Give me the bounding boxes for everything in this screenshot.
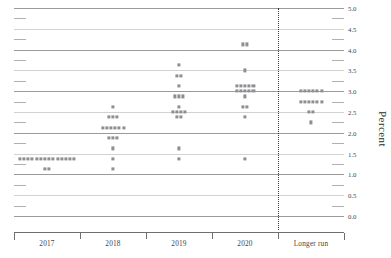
data-dot [303,90,306,93]
data-dot [243,116,246,119]
data-dot [307,90,310,93]
data-dot [248,90,251,93]
x-axis-tick [14,233,15,240]
gridline-stub-left [14,122,26,123]
data-dot [180,116,183,119]
data-dot [69,157,72,160]
data-dot [307,110,310,113]
data-dot [107,136,110,139]
data-dot [177,64,180,67]
gridline-stub-left [14,18,26,19]
data-dot [246,43,249,46]
data-dot [180,110,183,113]
data-dot [316,100,319,103]
data-dot [320,90,323,93]
data-dot [173,95,176,98]
data-dot [111,116,114,119]
data-dot [107,116,110,119]
x-axis-label-2020: 2020 [237,239,252,248]
data-dot [116,136,119,139]
data-dot [312,110,315,113]
gridline [14,29,344,30]
data-dot [114,126,117,129]
data-dot [52,157,55,160]
data-dot [31,157,34,160]
data-dot [122,126,125,129]
data-dot [111,168,114,171]
x-axis-tick [146,233,147,239]
data-dot [307,100,310,103]
data-dot [177,147,180,150]
x-axis-label-2019: 2019 [171,239,186,248]
gridline [14,154,344,155]
y-axis-tick-label: 0.0 [348,213,357,220]
data-dot [111,105,114,108]
gridline-stub-left [14,143,26,144]
data-dot [101,126,104,129]
data-dot [243,95,246,98]
y-axis-tick-label: 4.5 [348,25,357,32]
gridline [14,216,344,217]
data-dot [312,100,315,103]
data-dot [64,157,67,160]
gridline-stub-left [14,81,26,82]
y-axis-tick-label: 5.0 [348,5,357,12]
gridline-stub-right [332,81,344,82]
data-dot [243,90,246,93]
data-dot [180,74,183,77]
data-dot [73,157,76,160]
y-axis-tick-label: 2.5 [348,109,357,116]
x-axis-tick [212,233,213,239]
data-dot [316,90,319,93]
gridline [14,70,344,71]
gridline-stub-right [332,102,344,103]
data-dot [243,157,246,160]
data-dot [177,95,180,98]
data-dot [48,168,51,171]
data-dot [184,110,187,113]
x-axis-label-2018: 2018 [105,239,120,248]
data-dot [175,110,178,113]
data-dot [56,157,59,160]
y-axis-tick-label: 0.5 [348,192,357,199]
data-dot [246,105,249,108]
gridline-stub-right [332,122,344,123]
data-dot [241,105,244,108]
data-dot [27,157,30,160]
gridline-stub-right [332,143,344,144]
data-dot [239,90,242,93]
gridline [14,174,344,175]
y-axis-tick-label: 2.0 [348,129,357,136]
gridline [14,91,344,92]
data-dot [241,43,244,46]
y-axis-tick-label: 3.0 [348,88,357,95]
gridline [14,8,344,9]
data-dot [111,157,114,160]
data-dot [39,157,42,160]
x-axis-label-2017: 2017 [39,239,54,248]
gridline-stub-right [332,185,344,186]
gridline [14,195,344,196]
x-axis [14,232,344,233]
data-dot [175,116,178,119]
data-dot [303,100,306,103]
gridline-stub-left [14,164,26,165]
data-dot [109,126,112,129]
gridline-stub-left [14,206,26,207]
data-dot [43,168,46,171]
data-dot [43,157,46,160]
gridline-stub-right [332,164,344,165]
gridline [14,133,344,134]
data-dot [175,74,178,77]
gridline-stub-left [14,39,26,40]
data-dot [177,105,180,108]
plot-area [14,8,344,216]
data-dot [239,84,242,87]
x-axis-tick [80,233,81,239]
data-dot [252,90,255,93]
x-axis-label-longer-run: Longer run [294,239,329,248]
longer-run-divider [278,8,279,230]
data-dot [111,147,114,150]
dot-plot-chart: Percent 0.00.51.01.52.02.53.03.54.04.55.… [0,0,391,258]
data-dot [248,84,251,87]
